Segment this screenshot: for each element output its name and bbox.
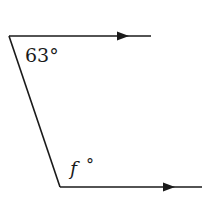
- parallel-lines-diagram: 63° f °: [0, 0, 218, 204]
- angle-label-f: f: [68, 157, 80, 179]
- bottom-arrow-icon: [163, 183, 175, 192]
- top-arrow-icon: [117, 32, 129, 41]
- diagram-canvas: 63° f °: [0, 0, 218, 204]
- angle-label-63: 63°: [25, 44, 59, 66]
- angle-label-f-degree: °: [86, 155, 94, 174]
